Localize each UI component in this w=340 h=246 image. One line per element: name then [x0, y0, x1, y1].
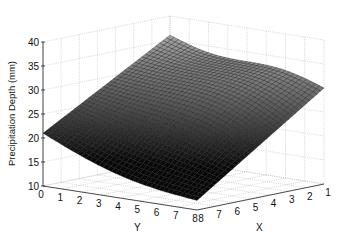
y-tick-label: 2: [77, 195, 83, 206]
x-tick-label: 1: [325, 187, 331, 198]
x-tick-label: 8: [198, 213, 204, 224]
y-tick-label: 5: [134, 204, 140, 215]
y-tick-label: 4: [115, 201, 121, 212]
y-tick-label: 7: [173, 210, 179, 221]
x-tick-label: 3: [289, 194, 295, 205]
z-tick-label: 15: [28, 157, 40, 168]
y-tick-label: 1: [57, 192, 63, 203]
x-tick-label: 2: [307, 191, 313, 202]
z-tick-label: 35: [28, 61, 40, 72]
z-axis-label: Precipitation Depth (mm): [6, 59, 17, 169]
y-axis-label: Y: [134, 222, 141, 233]
surface-chart: 1015202530354001234567812345678 Precipit…: [0, 0, 340, 246]
x-tick-label: 5: [253, 202, 259, 213]
x-tick-label: 4: [271, 198, 277, 209]
y-tick-label: 3: [96, 198, 102, 209]
y-tick-label: 0: [38, 189, 44, 200]
z-tick-label: 20: [28, 133, 40, 144]
x-tick-label: 7: [216, 209, 222, 220]
z-tick-label: 25: [28, 109, 40, 120]
surface-mesh: [43, 35, 324, 200]
z-tick-label: 30: [28, 85, 40, 96]
y-tick-label: 6: [154, 207, 160, 218]
chart-canvas: 1015202530354001234567812345678: [0, 0, 340, 246]
x-axis-label: X: [256, 222, 263, 233]
z-tick-label: 40: [28, 37, 40, 48]
x-tick-label: 6: [235, 206, 241, 217]
